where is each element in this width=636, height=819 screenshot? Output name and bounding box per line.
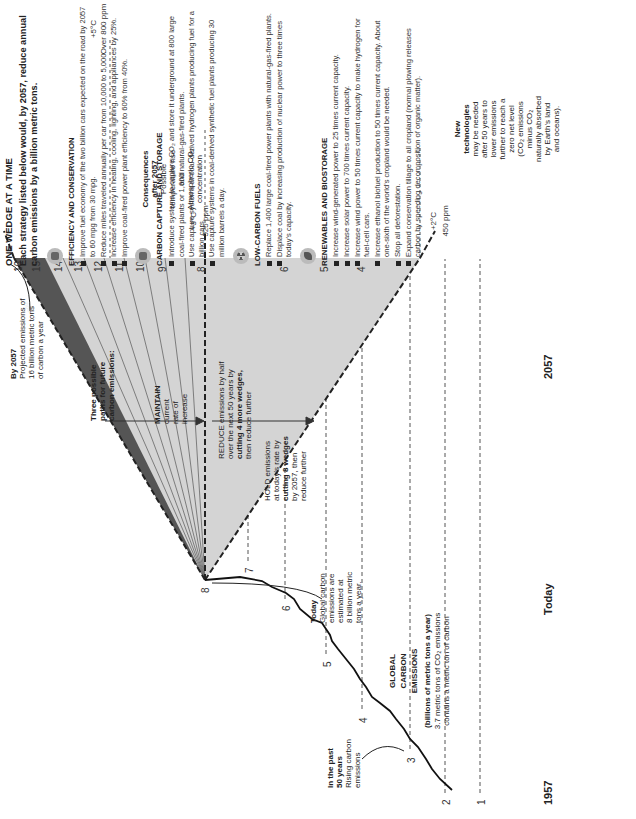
house-efficiency-icon xyxy=(47,248,63,264)
factory-storage-icon xyxy=(135,248,151,264)
svg-text:tons a year.: tons a year. xyxy=(354,582,363,623)
svg-text:cutting 8 wedges: cutting 8 wedges xyxy=(281,436,290,501)
panel-region: ONE WEDGE AT A TIME Each strategy listed… xyxy=(0,0,636,270)
svg-text:16 billion metric tons: 16 billion metric tons xyxy=(27,306,36,379)
past-50-years-annotation: In the past 50 years Rising carbon emiss… xyxy=(326,739,362,788)
svg-text:by 2057, then: by 2057, then xyxy=(290,453,299,501)
year-1957: 1957 xyxy=(542,781,554,805)
svg-text:50 years: 50 years xyxy=(335,755,344,788)
svg-text:Rising carbon: Rising carbon xyxy=(344,739,353,788)
svg-text:carbon emissions:: carbon emissions: xyxy=(107,350,116,421)
svg-text:GLOBAL: GLOBAL xyxy=(388,654,397,688)
svg-text:then reduce further: then reduce further xyxy=(244,391,253,459)
carbon-capture-list: Introduce systems to capture CO₂ and sto… xyxy=(167,6,227,266)
svg-text:paths for future: paths for future xyxy=(98,361,107,421)
list-item: Displace coal by increasing production o… xyxy=(275,6,294,266)
svg-text:Three possible: Three possible xyxy=(89,364,98,421)
panel-title: ONE WEDGE AT A TIME xyxy=(4,6,14,266)
list-item: Stop all deforestation. xyxy=(393,6,403,266)
tick-3: 3 xyxy=(406,757,417,763)
tick-7: 7 xyxy=(244,567,255,573)
tick-5: 5 xyxy=(322,661,333,667)
list-item: Increase ethanol biofuel production to 5… xyxy=(373,6,392,266)
svg-text:REDUCE emissions by half: REDUCE emissions by half xyxy=(217,361,226,459)
svg-text:EMISSIONS: EMISSIONS xyxy=(410,648,419,693)
low-carbon-list: Replace 1,400 large coal-fired power pla… xyxy=(264,6,294,266)
tick-1: 1 xyxy=(476,799,487,805)
section-heading-efficiency: EFFICIENCY AND CONSERVATION xyxy=(67,6,77,266)
apex-8: 8 xyxy=(200,587,211,593)
svg-text:CARBON: CARBON xyxy=(399,653,408,688)
year-today: Today xyxy=(542,583,554,615)
renewables-list: Increase wind-generated power to 25 time… xyxy=(331,6,422,266)
radiation-icon xyxy=(233,248,249,264)
svg-text:(billions of metric tons a yea: (billions of metric tons a year) xyxy=(423,614,432,728)
svg-text:HOLD emissions: HOLD emissions xyxy=(263,441,272,501)
list-item: Use capture systems at coal-derived hydr… xyxy=(187,6,206,266)
list-item: Use capture systems in coal-derived synt… xyxy=(207,6,226,266)
tick-6: 6 xyxy=(281,605,292,611)
tick-4: 4 xyxy=(358,717,369,723)
svg-text:cutting 4 more wedges,: cutting 4 more wedges, xyxy=(235,370,244,459)
svg-text:Global carbon: Global carbon xyxy=(318,573,327,623)
list-item: Replace 1,400 large coal-fired power pla… xyxy=(264,6,274,266)
section-heading-renewables: RENEWABLES AND BIOSTORAGE xyxy=(320,6,330,266)
svg-text:MAINTAIN: MAINTAIN xyxy=(153,385,162,424)
list-item: Introduce systems to capture CO₂ and sto… xyxy=(167,6,186,266)
list-item: Increase wind-generated power to 25 time… xyxy=(331,6,341,266)
year-2057: 2057 xyxy=(542,355,554,379)
list-item: Expand conservation tillage to all cropl… xyxy=(404,6,423,266)
today-annotation: Today Global carbon emissions are estima… xyxy=(309,572,363,623)
svg-text:contains a metric ton of carbo: contains a metric ton of carbon xyxy=(442,616,451,725)
section-heading-carbon-capture: CARBON CAPTURE AND STORAGE xyxy=(155,6,165,266)
list-item: Increase wind power to 50 times current … xyxy=(353,6,372,266)
list-item: Improve fuel economy of the two billion … xyxy=(78,6,97,266)
section-heading-low-carbon: LOW-CARBON FUELS xyxy=(253,6,263,266)
list-item: Increase efficiency in heating, cooling,… xyxy=(109,6,119,266)
list-item: Reduce miles traveled annually per car f… xyxy=(99,6,109,266)
list-item: Increase solar power to 700 times curren… xyxy=(342,6,352,266)
leaf-icon xyxy=(300,248,316,264)
svg-text:In the past: In the past xyxy=(326,748,335,788)
svg-text:3.7 metric tons of CO₂ emissio: 3.7 metric tons of CO₂ emissions xyxy=(433,613,442,729)
svg-text:rate of: rate of xyxy=(171,401,180,424)
svg-text:at today's rate by: at today's rate by xyxy=(272,440,281,501)
svg-text:8 billion metric: 8 billion metric xyxy=(345,572,354,623)
efficiency-list: Improve fuel economy of the two billion … xyxy=(78,6,129,266)
svg-text:estimated at: estimated at xyxy=(336,579,345,623)
axis-title-block: GLOBAL CARBON EMISSIONS (billions of met… xyxy=(388,613,451,729)
svg-text:increase: increase xyxy=(180,393,189,424)
strategies-panel: ONE WEDGE AT A TIME Each strategy listed… xyxy=(4,6,429,266)
list-item: Improve coal-fired power plant efficienc… xyxy=(120,6,130,266)
tick-2: 2 xyxy=(441,799,452,805)
panel-lead: Each strategy listed below would, by 205… xyxy=(18,6,41,266)
svg-text:Projected emissions of: Projected emissions of xyxy=(18,298,27,379)
svg-text:over the next 50 years by: over the next 50 years by xyxy=(226,369,235,459)
svg-text:emissions are: emissions are xyxy=(327,573,336,623)
svg-text:By 2057: By 2057 xyxy=(9,348,18,379)
svg-text:of carbon a year: of carbon a year xyxy=(36,321,45,379)
svg-text:reduce further: reduce further xyxy=(299,451,308,501)
svg-text:Today: Today xyxy=(309,599,318,623)
hold-label: HOLD emissions at today's rate by cuttin… xyxy=(263,436,308,501)
svg-text:emissions: emissions xyxy=(353,752,362,788)
svg-text:current: current xyxy=(162,398,171,424)
by-2057-annotation: By 2057 Projected emissions of 16 billio… xyxy=(9,298,45,379)
